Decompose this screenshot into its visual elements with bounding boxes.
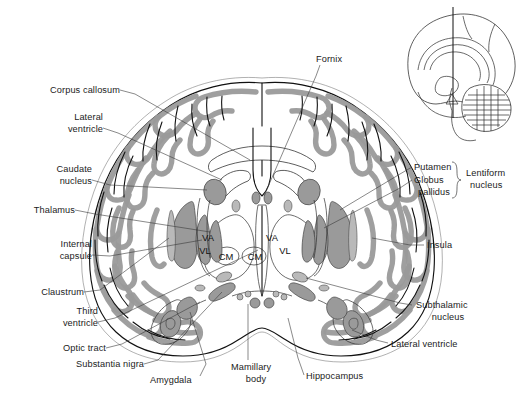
label-caudate-nucleus-line2: nucleus (60, 176, 93, 186)
mamillary-body-left (250, 298, 260, 308)
label-lentiform-nucleus-line2: nucleus (470, 180, 503, 190)
label-globus-pallidus-line1: Globus (414, 175, 444, 185)
label-fornix: Fornix (316, 54, 342, 64)
label-thalamus: Thalamus (34, 205, 75, 215)
fornix-left (252, 192, 260, 204)
label-lentiform-nucleus-line1: Lentiform (466, 168, 505, 178)
label-cm-left: CM (219, 251, 234, 262)
label-mamillary-body-line2: body (246, 374, 267, 384)
basal-forebrain-right (319, 285, 329, 291)
hypothalamic-nucleus-l2 (245, 291, 251, 297)
label-lateral-ventricle-left-line1: Lateral (74, 112, 103, 122)
label-caudate-nucleus-line1: Caudate (57, 164, 92, 174)
hypothalamic-nucleus-r1 (281, 294, 287, 300)
basal-forebrain-left (195, 285, 205, 291)
label-mamillary-body-line1: Mamillary (231, 362, 272, 372)
label-hippocampus: Hippocampus (306, 371, 364, 381)
label-amygdala: Amygdala (150, 375, 192, 385)
label-va-left: VA (202, 232, 215, 243)
label-globus-pallidus-line2: pallidus (418, 187, 450, 197)
label-optic-tract: Optic tract (63, 343, 106, 353)
lentiform-nucleus-brace (452, 162, 461, 198)
label-lateral-ventricle-left-line2: ventricle (68, 124, 103, 134)
label-putamen: Putamen (414, 162, 451, 172)
label-va-right: VA (266, 232, 279, 243)
deep-nucleus-left (232, 200, 240, 212)
label-substantia-nigra: Substantia nigra (76, 359, 145, 369)
inset-cerebellum-outline (462, 85, 511, 132)
label-subthalamic-nucleus-line2: nucleus (432, 312, 465, 322)
mamillary-body-right (264, 298, 274, 308)
hypothalamic-nucleus-r2 (273, 291, 279, 297)
label-subthalamic-nucleus-line1: Subthalamic (416, 300, 468, 310)
label-lateral-ventricle-right: Lateral ventricle (391, 339, 458, 349)
sagittal-orientation-inset (408, 7, 515, 141)
brain-diagram-svg: Corpus callosum Lateral ventricle Caudat… (0, 0, 524, 403)
label-claustrum: Claustrum (41, 287, 84, 297)
label-cm-right: CM (248, 251, 263, 262)
label-vl-left: VL (199, 245, 210, 256)
label-vl-right: VL (279, 245, 290, 256)
deep-nucleus-right (284, 200, 292, 212)
label-third-ventricle-line2: ventricle (63, 318, 98, 328)
coronal-section-drawing (82, 77, 443, 362)
label-internal-capsule-line1: Internal (61, 239, 92, 249)
hypothalamic-nucleus-l1 (237, 294, 243, 300)
brain-coronal-section-figure: Corpus callosum Lateral ventricle Caudat… (0, 0, 524, 403)
label-insula: Insula (427, 240, 453, 250)
label-internal-capsule-line2: capsule (60, 251, 92, 261)
label-corpus-callosum: Corpus callosum (50, 85, 120, 95)
label-third-ventricle-line1: Third (77, 306, 98, 316)
